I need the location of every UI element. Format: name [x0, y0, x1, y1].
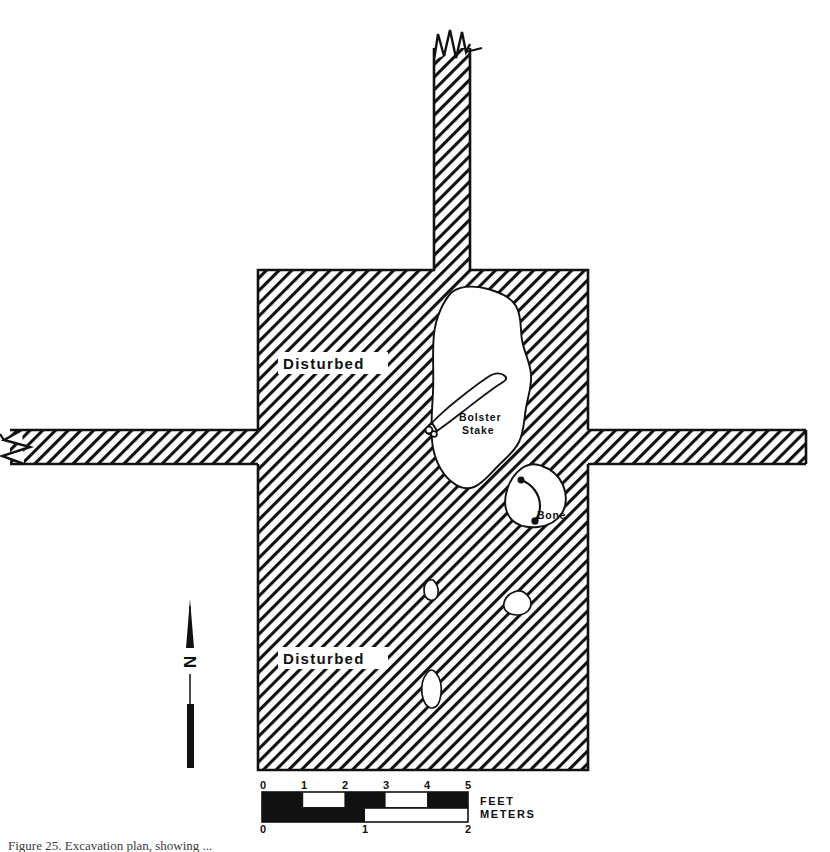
scale-tick-feet: 4: [424, 779, 431, 791]
scale-tick-feet: 1: [301, 779, 307, 791]
scale-tick-feet: 2: [342, 779, 348, 791]
scale-unit-meters-label: METERS: [480, 808, 535, 820]
area-label-disturbed-lower: Disturbed: [278, 647, 388, 669]
figure-caption: Figure 25. Excavation plan, showing ...: [8, 836, 708, 852]
feature-label-bolster: Bolster: [459, 411, 501, 423]
area-label-text: Disturbed: [283, 355, 365, 372]
scale-tick-feet: 5: [465, 779, 471, 791]
scale-tick-feet: 3: [383, 779, 389, 791]
scale-tick-feet: 0: [260, 779, 266, 791]
feature-label-stake: Stake: [462, 424, 495, 436]
north-arrow-letter: N: [180, 648, 199, 674]
scale-tick-meters: 2: [465, 823, 471, 835]
north-letter-text: N: [180, 656, 199, 668]
figure-caption-text: Figure 25. Excavation plan, showing ...: [8, 838, 212, 852]
feature-label-bone: Bone: [537, 509, 566, 521]
area-label-text: Disturbed: [283, 650, 365, 667]
scale-unit-feet-label: FEET: [480, 795, 515, 807]
scale-tick-meters: 1: [362, 823, 368, 835]
area-label-disturbed-upper: Disturbed: [278, 352, 388, 374]
scale-tick-meters: 0: [260, 823, 266, 835]
